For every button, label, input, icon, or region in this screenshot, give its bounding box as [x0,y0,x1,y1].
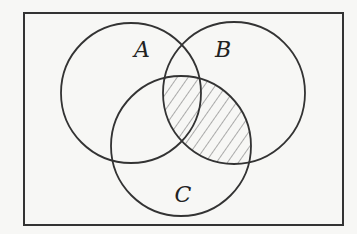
set-c-label: C [175,182,192,207]
set-a-label: A [132,37,150,62]
venn-diagram: A B C [0,0,357,234]
set-b-label: B [214,37,231,62]
